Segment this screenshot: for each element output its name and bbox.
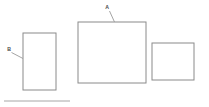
diagram-svg: A B bbox=[0, 0, 209, 107]
callout-b-label: B bbox=[7, 46, 11, 52]
left-rectangle bbox=[23, 33, 56, 90]
callout-a-leader-line bbox=[110, 11, 115, 22]
right-rectangle bbox=[152, 43, 194, 80]
callout-b-leader-line bbox=[12, 53, 24, 59]
middle-rectangle bbox=[78, 22, 146, 83]
diagram-canvas: A B bbox=[0, 0, 209, 107]
callout-a-label: A bbox=[105, 4, 109, 10]
